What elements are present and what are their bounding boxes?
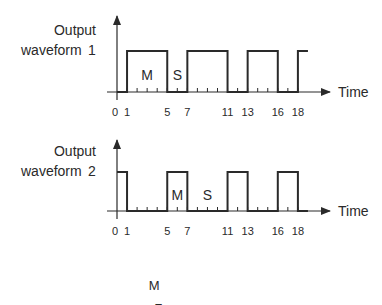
tick-label: 11	[222, 106, 233, 118]
tick-label: 13	[242, 225, 254, 237]
waveform-trace	[117, 172, 308, 211]
diagram-canvas: Output waveform 1 Time 015711131618 MS O…	[0, 0, 382, 305]
tick-label: 1	[124, 225, 130, 237]
tick-label: 7	[184, 225, 190, 237]
legend-row-mark: M = Mark	[127, 256, 186, 305]
waveform-2-plot	[107, 140, 330, 219]
tick-label: 5	[164, 106, 170, 118]
waveform-2-label-line2: waveform	[21, 163, 82, 179]
tick-label: 18	[292, 106, 304, 118]
waveform-1-time-axis-label: Time	[338, 84, 369, 100]
tick-label: 1	[124, 106, 130, 118]
mark-annotation: M	[141, 67, 153, 83]
legend: M = Mark S = Space	[127, 256, 186, 305]
waveform-1-label-line1: Output	[0, 22, 96, 38]
tick-label: 0	[112, 106, 118, 118]
waveform-1-number: 1	[88, 42, 96, 58]
waveform-1-label-line2: waveform	[21, 42, 82, 58]
tick-label: 7	[184, 106, 190, 118]
space-annotation: S	[173, 67, 182, 83]
tick-label: 13	[242, 106, 254, 118]
mark-annotation: M	[171, 187, 183, 203]
waveform-2-time-axis-label: Time	[338, 203, 369, 219]
tick-label: 16	[272, 225, 284, 237]
tick-label: 11	[222, 225, 233, 237]
legend-symbol: M	[149, 278, 160, 293]
tick-label: 0	[112, 225, 118, 237]
space-annotation: S	[203, 187, 212, 203]
waveform-1-plot	[107, 16, 330, 100]
tick-label: 5	[164, 225, 170, 237]
tick-label: 18	[292, 225, 304, 237]
waveform-2-label-line1: Output	[0, 143, 96, 159]
tick-label: 16	[272, 106, 284, 118]
legend-equals: =	[155, 298, 163, 305]
waveform-2-number: 2	[88, 163, 96, 179]
